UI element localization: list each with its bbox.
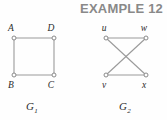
vertex-label-w: w — [141, 23, 148, 33]
graph-caption-g2: G — [119, 100, 127, 112]
vertex-label-v: v — [102, 80, 107, 90]
vertex-label-C: C — [48, 80, 55, 90]
vertex-label-A: A — [7, 23, 14, 33]
vertex-C — [52, 73, 56, 77]
vertex-w — [144, 36, 148, 40]
vertex-label-x: x — [141, 80, 147, 90]
vertex-u — [104, 36, 108, 40]
vertex-D — [52, 36, 56, 40]
example-figure-page: EXAMPLE 12 A D B C G — [0, 0, 167, 120]
graph-caption-g2-subscript: 2 — [127, 107, 131, 115]
vertex-v — [104, 73, 108, 77]
graph-caption-g1-subscript: 1 — [34, 107, 38, 115]
vertex-label-D: D — [47, 23, 55, 33]
graphs-figure: A D B C G 1 — [0, 0, 167, 120]
g2-edges — [106, 38, 146, 75]
vertex-B — [12, 73, 16, 77]
g1-caption: G 1 — [26, 100, 38, 115]
vertex-A — [12, 36, 16, 40]
g2-vertex-labels: u w v x — [102, 23, 148, 90]
graph-caption-g1: G — [26, 100, 34, 112]
graph-g1: A D B C G 1 — [7, 23, 56, 115]
g2-caption: G 2 — [119, 100, 131, 115]
g1-edges — [14, 38, 54, 75]
graph-g2: u w v x G 2 — [102, 23, 148, 115]
g1-vertices — [12, 36, 56, 77]
vertex-x — [144, 73, 148, 77]
vertex-label-u: u — [102, 23, 107, 33]
vertex-label-B: B — [8, 80, 14, 90]
